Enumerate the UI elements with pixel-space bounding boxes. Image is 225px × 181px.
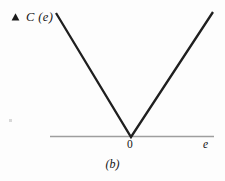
figure-caption: (b) xyxy=(0,158,225,170)
figure-panel-b: C (e) 0 e (b) xyxy=(0,0,225,181)
cost-curve-v-shape xyxy=(56,12,213,137)
y-axis-label: C (e) xyxy=(26,11,53,24)
plot-area xyxy=(0,0,225,181)
x-axis-label: e xyxy=(203,139,208,151)
origin-label: 0 xyxy=(127,139,133,151)
up-triangle-marker xyxy=(12,13,20,20)
scan-artifact-speck xyxy=(9,119,12,122)
